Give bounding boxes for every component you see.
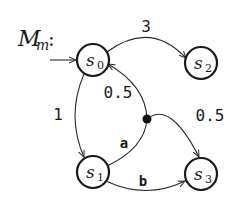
automaton-diagram: M m : 3 1 a 0.5 0.5 b s 0 s 1 s 2 s 3 (0, 0, 236, 210)
node-s3-label: s (194, 164, 203, 184)
node-s0-subscript: 0 (97, 59, 104, 72)
edge-label-a: a (120, 135, 128, 151)
edge-label-s0-s2: 3 (141, 17, 151, 36)
edge-label-b: b (139, 173, 147, 189)
node-s1: s 1 (77, 156, 109, 188)
node-s3-subscript: 3 (205, 173, 212, 186)
node-s3: s 3 (185, 158, 217, 190)
edge-s0-s1 (75, 74, 84, 157)
edge-label-branch-s3: 0.5 (196, 106, 225, 125)
node-s2: s 2 (185, 47, 217, 79)
diagram-title: M m : (17, 26, 55, 53)
branch-point (143, 115, 152, 124)
title-colon: : (48, 27, 55, 51)
node-s0-label: s (86, 50, 95, 70)
node-s1-subscript: 1 (97, 171, 104, 184)
edge-s0-s2 (107, 37, 186, 58)
edge-label-s0-s1: 1 (53, 105, 63, 124)
node-s2-subscript: 2 (205, 62, 212, 75)
node-s1-label: s (86, 162, 95, 182)
node-s2-label: s (194, 53, 203, 73)
edge-branch-s3 (147, 114, 199, 157)
edge-label-branch-s0: 0.5 (104, 83, 133, 102)
node-s0: s 0 (77, 44, 109, 76)
